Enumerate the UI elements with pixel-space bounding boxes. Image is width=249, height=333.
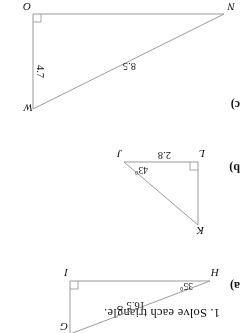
vertex-label-w: W bbox=[24, 102, 33, 114]
vertex-label-o: O bbox=[23, 1, 31, 13]
right-angle-marker-c bbox=[33, 14, 41, 22]
vertex-label-n: N bbox=[228, 1, 235, 13]
side-label-c-47: 4.7 bbox=[35, 65, 46, 78]
side-label-c-85: 8.5 bbox=[123, 61, 136, 72]
